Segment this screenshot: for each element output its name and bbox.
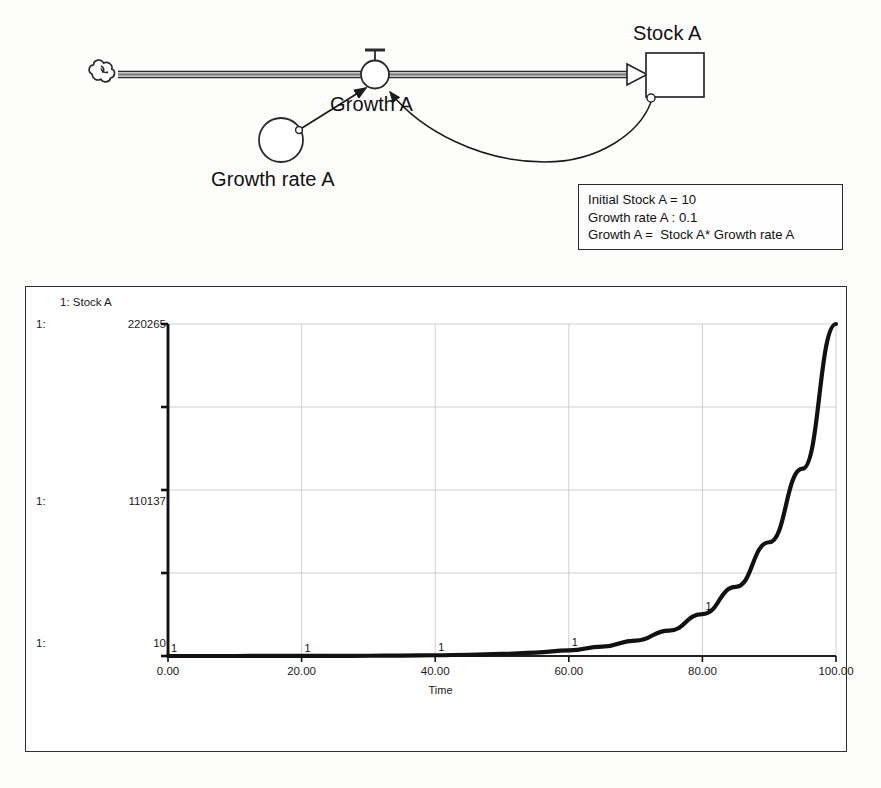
equation-line-initial-stock: Initial Stock A = 10 [588, 191, 842, 209]
y-tick-label-mid: 110137 [96, 495, 166, 507]
y-tick-label-max: 220265 [96, 318, 166, 330]
x-tick-label: 60.00 [539, 665, 599, 677]
converter-label: Growth rate A [211, 168, 335, 191]
x-tick-label: 100.00 [806, 665, 866, 677]
screenshot-root: Stock A Growth A Growth rate A Initial S… [0, 0, 881, 788]
converter-circle-icon [259, 118, 303, 162]
y-axis-series-index-mid: 1: [36, 495, 46, 507]
y-axis-series-index-top: 1: [36, 318, 46, 330]
y-tick-label-min: 10 [96, 637, 166, 649]
valve-icon [361, 50, 389, 89]
y-axis-series-index-bottom: 1: [36, 637, 46, 649]
x-tick-label: 40.00 [405, 665, 465, 677]
x-axis-title: Time [0, 684, 881, 696]
stock-box-icon [646, 53, 704, 97]
stock-label: Stock A [633, 22, 702, 45]
x-tick-label: 80.00 [672, 665, 732, 677]
equation-line-growth: Growth A = Stock A* Growth rate A [588, 226, 842, 244]
equations-box: Initial Stock A = 10 Growth rate A : 0.1… [578, 184, 843, 250]
flow-label: Growth A [330, 93, 413, 116]
equation-line-growth-rate: Growth rate A : 0.1 [588, 209, 842, 227]
x-tick-label: 20.00 [272, 665, 332, 677]
x-tick-label: 0.00 [138, 665, 198, 677]
chart-panel [25, 286, 847, 752]
cloud-icon [89, 60, 114, 82]
feedback-link-icon [390, 92, 655, 162]
chart-legend: 1: Stock A [60, 296, 112, 308]
